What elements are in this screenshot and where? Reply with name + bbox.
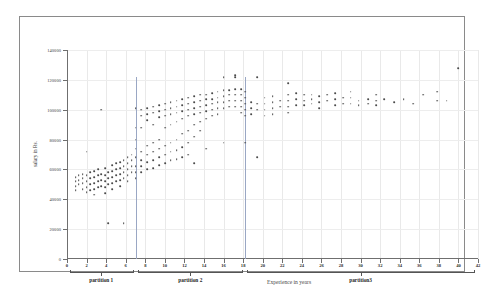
- x-tick-label: 12: [182, 263, 187, 268]
- scatter-point: [368, 98, 370, 100]
- scatter-point: [256, 103, 258, 105]
- x-tick-label: 32: [378, 263, 383, 268]
- x-tick-label: 2: [85, 263, 87, 268]
- scatter-point: [272, 107, 274, 109]
- scatter-point: [123, 178, 125, 180]
- scatter-point: [75, 185, 77, 187]
- scatter-point: [86, 175, 88, 177]
- scatter-point: [123, 166, 125, 168]
- scatter-point: [211, 92, 213, 94]
- scatter-point: [234, 76, 236, 78]
- scatter-point: [135, 139, 137, 141]
- y-tick: [63, 199, 67, 200]
- scatter-point: [272, 95, 274, 97]
- scatter-point: [146, 119, 148, 121]
- scatter-point: [158, 164, 160, 166]
- scatter-point: [368, 103, 370, 105]
- y-tick-label: 20000: [50, 227, 61, 232]
- scatter-point: [182, 98, 184, 100]
- scatter-point: [119, 173, 121, 175]
- x-tick-label: 40: [456, 263, 461, 268]
- gridline-vertical: [458, 50, 459, 259]
- scatter-point: [107, 222, 109, 224]
- x-tick-label: 0: [66, 263, 68, 268]
- partition-bracket-stem: [361, 273, 362, 276]
- scatter-point: [199, 121, 201, 123]
- scatter-point: [127, 175, 129, 177]
- gridline-vertical: [478, 50, 479, 259]
- x-tick-label: 6: [125, 263, 127, 268]
- scatter-point: [100, 179, 102, 181]
- scatter-point: [193, 124, 195, 126]
- partition-label: partition 2: [178, 277, 202, 283]
- scatter-point: [287, 82, 289, 84]
- scatter-point: [458, 67, 460, 69]
- scatter-point: [97, 169, 99, 171]
- scatter-point: [86, 151, 88, 153]
- scatter-point: [90, 189, 92, 191]
- scatter-point: [244, 97, 246, 99]
- y-tick: [63, 50, 67, 51]
- scatter-point: [319, 107, 321, 109]
- scatter-point: [229, 94, 231, 96]
- scatter-point: [135, 148, 137, 150]
- scatter-point: [182, 110, 184, 112]
- scatter-point: [146, 107, 148, 109]
- scatter-point: [256, 76, 258, 78]
- scatter-point: [334, 92, 336, 94]
- scatter-point: [176, 149, 178, 151]
- scatter-point: [182, 157, 184, 159]
- scatter-point: [158, 116, 160, 118]
- scatter-point: [240, 112, 242, 114]
- scatter-point: [127, 157, 129, 159]
- scatter-point: [107, 184, 109, 186]
- y-tick-label: 100000: [47, 107, 61, 112]
- scatter-point: [164, 163, 166, 165]
- scatter-point: [217, 101, 219, 103]
- scatter-point: [187, 154, 189, 156]
- scatter-point: [240, 88, 242, 90]
- scatter-point: [82, 188, 84, 190]
- gridline-vertical: [341, 50, 342, 259]
- scatter-point: [75, 181, 77, 183]
- scatter-point: [303, 104, 305, 106]
- scatter-point: [205, 148, 207, 150]
- scatter-point: [295, 98, 297, 100]
- y-tick: [63, 80, 67, 81]
- scatter-point: [264, 115, 266, 117]
- scatter-point: [244, 103, 246, 105]
- scatter-point: [164, 115, 166, 117]
- scatter-point: [176, 112, 178, 114]
- scatter-point: [244, 91, 246, 93]
- x-tick-label: 42: [476, 263, 481, 268]
- scatter-point: [182, 133, 184, 135]
- x-tick-label: 18: [241, 263, 246, 268]
- scatter-point: [146, 169, 148, 171]
- scatter-point: [223, 101, 225, 103]
- y-axis-title: salary in Rs.: [32, 141, 38, 167]
- scatter-point: [111, 188, 113, 190]
- scatter-point: [127, 169, 129, 171]
- scatter-point: [319, 95, 321, 97]
- x-tick-label: 34: [397, 263, 402, 268]
- scatter-point: [234, 100, 236, 102]
- y-tick-label: 140000: [47, 48, 61, 53]
- scatter-point: [240, 106, 242, 108]
- scatter-point: [311, 94, 313, 96]
- scatter-point: [229, 89, 231, 91]
- scatter-point: [182, 146, 184, 148]
- scatter-point: [326, 94, 328, 96]
- scatter-point: [82, 182, 84, 184]
- gridline-horizontal: [67, 50, 478, 51]
- scatter-point: [170, 124, 172, 126]
- scatter-point: [250, 107, 252, 109]
- gridline-vertical: [126, 50, 127, 259]
- x-tick-label: 24: [300, 263, 305, 268]
- scatter-point: [223, 95, 225, 97]
- scatter-point: [240, 94, 242, 96]
- scatter-point: [164, 103, 166, 105]
- scatter-point: [199, 94, 201, 96]
- scatter-point: [164, 154, 166, 156]
- scatter-point: [187, 142, 189, 144]
- scatter-point: [244, 142, 246, 144]
